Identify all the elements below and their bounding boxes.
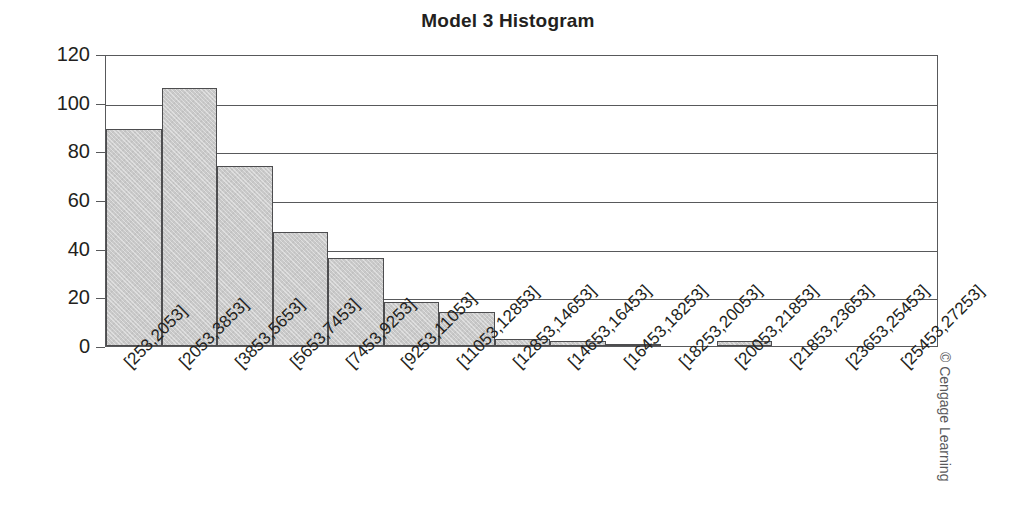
histogram-bar xyxy=(273,232,329,346)
histogram-bar xyxy=(495,339,551,346)
histogram-bar xyxy=(717,341,773,346)
y-axis-label: 20 xyxy=(32,287,90,307)
histogram-bar xyxy=(606,344,662,346)
chart-title: Model 3 Histogram xyxy=(0,10,1016,32)
y-axis-line xyxy=(105,55,106,347)
y-axis-label: 60 xyxy=(32,190,90,210)
histogram-chart: Model 3 Histogram 020406080100120 [253,2… xyxy=(0,0,1016,509)
histogram-bar xyxy=(384,302,440,346)
histogram-bar xyxy=(162,88,218,346)
histogram-bar xyxy=(439,312,495,346)
y-axis-label: 100 xyxy=(32,93,90,113)
y-axis-label: 0 xyxy=(32,336,90,356)
y-tick-60 xyxy=(96,201,105,202)
bars-layer xyxy=(106,56,937,346)
y-tick-80 xyxy=(96,152,105,153)
histogram-bar xyxy=(328,258,384,346)
y-axis-label: 40 xyxy=(32,239,90,259)
histogram-bar xyxy=(106,129,162,346)
y-tick-20 xyxy=(96,298,105,299)
plot-area xyxy=(105,55,938,347)
y-axis-label: 80 xyxy=(32,141,90,161)
histogram-bar xyxy=(217,166,273,346)
y-axis-label: 120 xyxy=(32,44,90,64)
histogram-bar xyxy=(550,341,606,346)
copyright-notice: © Cengage Learning xyxy=(938,352,952,481)
y-tick-0 xyxy=(96,347,105,348)
y-tick-120 xyxy=(96,55,105,56)
y-tick-100 xyxy=(96,104,105,105)
y-tick-40 xyxy=(96,250,105,251)
